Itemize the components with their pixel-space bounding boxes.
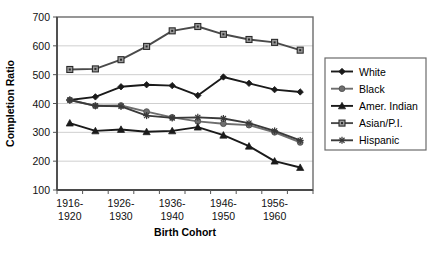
marker-square-center (274, 41, 276, 43)
marker-asterisk (118, 103, 125, 110)
marker-square-center (197, 26, 199, 28)
marker-asterisk (194, 114, 201, 121)
x-tick-label: 1940 (161, 210, 185, 222)
marker-square-center (120, 59, 122, 61)
chart-container: 1002003004005006007001916-19201926-19301… (0, 0, 433, 253)
legend-item-asian-p-i[interactable]: Asian/P.I. (327, 115, 424, 131)
marker-asterisk (297, 137, 304, 144)
x-tick-label: 1960 (263, 210, 287, 222)
y-tick-label: 300 (32, 126, 50, 138)
legend-item-label: Asian/P.I. (359, 117, 403, 129)
x-axis-title: Birth Cohort (154, 226, 216, 238)
y-tick-label: 400 (32, 98, 50, 110)
marker-asterisk (220, 115, 227, 122)
y-tick-label: 200 (32, 155, 50, 167)
marker-asterisk (66, 97, 73, 104)
marker-square-center (146, 45, 148, 47)
completion-ratio-line-chart: 1002003004005006007001916-19201926-19301… (0, 0, 433, 253)
x-tick-label: 1926- (108, 197, 135, 209)
marker-asterisk (271, 127, 278, 134)
marker-square-center (171, 30, 173, 32)
y-tick-label: 700 (32, 11, 50, 23)
x-tick-label: 1930 (109, 210, 133, 222)
marker-square-center (222, 33, 224, 35)
marker-asterisk (246, 120, 253, 127)
marker-asterisk (169, 114, 176, 121)
legend-item-hispanic[interactable]: Hispanic (327, 132, 424, 148)
x-tick-label: 1956- (261, 197, 288, 209)
legend-item-white[interactable]: White (327, 64, 424, 80)
legend-item-label: Hispanic (359, 134, 399, 146)
marker-asterisk (92, 102, 99, 109)
x-tick-label: 1936- (159, 197, 186, 209)
y-tick-label: 500 (32, 69, 50, 81)
legend-item-amer-indian[interactable]: Amer. Indian (327, 98, 424, 114)
legend-item-label: Amer. Indian (359, 100, 418, 112)
legend-item-label: White (359, 66, 386, 78)
marker-asterisk (339, 137, 346, 144)
x-tick-label: 1946- (210, 197, 237, 209)
marker-square-center (69, 68, 71, 70)
legend: WhiteBlackAmer. IndianAsian/P.I.Hispanic (325, 58, 426, 150)
marker-square-center (248, 38, 250, 40)
marker-circle (339, 86, 345, 92)
marker-square-center (299, 49, 301, 51)
legend-item-black[interactable]: Black (327, 81, 424, 97)
marker-asterisk (143, 112, 150, 119)
x-tick-label: 1916- (56, 197, 83, 209)
y-tick-label: 600 (32, 40, 50, 52)
y-axis-title: Completion Ratio (4, 60, 16, 147)
y-tick-label: 100 (32, 184, 50, 196)
legend-item-label: Black (359, 83, 385, 95)
x-tick-label: 1950 (212, 210, 236, 222)
marker-square-center (341, 122, 343, 124)
marker-square-center (94, 68, 96, 70)
x-tick-label: 1920 (58, 210, 82, 222)
